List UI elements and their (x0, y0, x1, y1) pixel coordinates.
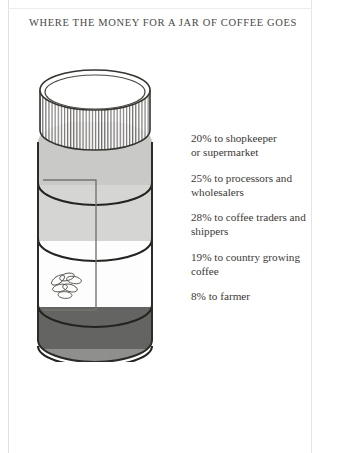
legend-item-processors: 25% to processors and wholesalers (191, 171, 311, 200)
legend-item-farmer: 8% to farmer (191, 289, 311, 303)
legend-item-shopkeeper: 20% to shopkeeper or supermarket (191, 131, 311, 160)
page-frame-right-rule (311, 0, 312, 453)
coffee-jar-illustration (36, 62, 154, 362)
legend-item-traders: 28% to coffee traders and shippers (191, 210, 311, 239)
page-frame-top-rule (8, 8, 312, 9)
page-title: WHERE THE MONEY FOR A JAR OF COFFEE GOES (18, 17, 308, 28)
band-processors (36, 185, 154, 241)
legend-item-line2: coffee (191, 264, 311, 278)
page-frame-left-rule (8, 0, 9, 453)
legend-item-line1: 28% to coffee traders and (191, 211, 306, 223)
legend-item-line1: 8% to farmer (191, 290, 250, 302)
legend-item-line2: or supermarket (191, 145, 311, 159)
legend-item-line1: 19% to country growing (191, 251, 300, 263)
legend-item-line2: wholesalers (191, 185, 311, 199)
band-traders (36, 241, 154, 307)
lid-rim-inner (45, 75, 145, 109)
legend-item-country: 19% to country growing coffee (191, 250, 311, 279)
legend-list: 20% to shopkeeper or supermarket 25% to … (191, 131, 311, 315)
page-canvas: WHERE THE MONEY FOR A JAR OF COFFEE GOES (0, 0, 341, 453)
legend-item-line2: shippers (191, 224, 311, 238)
jar-lid (36, 70, 154, 154)
legend-item-line1: 20% to shopkeeper (191, 132, 277, 144)
legend-item-line1: 25% to processors and (191, 172, 292, 184)
